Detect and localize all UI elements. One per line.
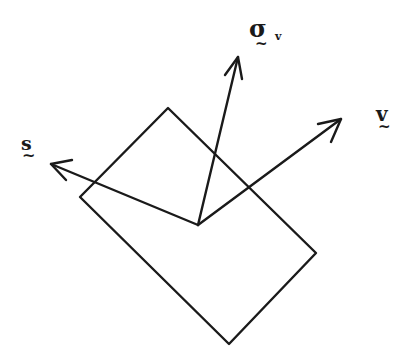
label-sigma-v-tilde: ~ bbox=[255, 37, 268, 52]
diagram-canvas: s ~ σ v ~ v ~ bbox=[0, 0, 419, 358]
vector-s bbox=[51, 160, 198, 225]
label-s-tilde: ~ bbox=[22, 148, 35, 164]
diagram-graphics bbox=[0, 0, 419, 358]
vector-sigma-v bbox=[198, 57, 242, 225]
label-sigma-v-subscript: v bbox=[275, 31, 281, 42]
label-v-tilde: ~ bbox=[378, 120, 391, 135]
